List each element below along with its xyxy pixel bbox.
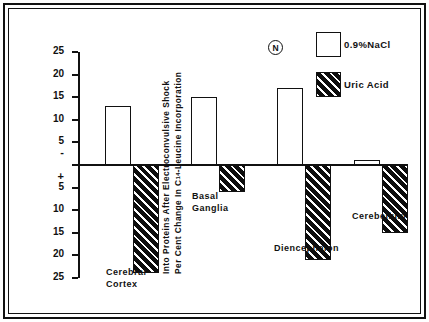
bar-nacl-cerebellum xyxy=(354,160,380,165)
y-axis-tick-label: 10 xyxy=(53,204,64,214)
category-label-line: Cerebellum xyxy=(352,210,406,222)
legend-swatch-open-square-icon xyxy=(316,32,341,57)
figure-root: Per Cent Change In C14-Leucine Incorpora… xyxy=(0,0,429,322)
category-label-diencephalon: Diencephalon xyxy=(274,242,339,254)
y-axis-tick: 15 xyxy=(72,96,78,98)
y-axis-tick-label: 20 xyxy=(53,249,64,259)
y-axis-sign-label: - xyxy=(60,147,64,158)
y-axis-tick: 25 xyxy=(72,277,78,279)
bar-nacl-basal-ganglia xyxy=(191,97,217,165)
y-axis-sign-sign_positive: + xyxy=(72,176,78,178)
y-axis-tick xyxy=(72,164,78,166)
y-axis-tick-label: 20 xyxy=(53,69,64,79)
bar-uric-acid-cerebellum xyxy=(382,165,408,233)
y-axis-tick: 10 xyxy=(72,209,78,211)
legend-label-uric-acid: Uric Acid xyxy=(344,79,389,90)
n-marker-icon: N xyxy=(268,40,283,55)
y-axis-tick-label: 25 xyxy=(53,272,64,282)
legend-item-nacl: 0.9%NaCl xyxy=(316,32,391,57)
y-axis-tick-label: 25 xyxy=(53,46,64,56)
y-axis-tick: 20 xyxy=(72,254,78,256)
bar-nacl-cerebral-cortex xyxy=(105,106,131,165)
category-label-line: Diencephalon xyxy=(274,242,339,254)
category-label-line: Basal xyxy=(192,190,229,202)
category-label-basal-ganglia: BasalGanglia xyxy=(192,190,229,214)
y-axis-tick: 20 xyxy=(72,74,78,76)
category-label-line: Cerebral xyxy=(106,266,147,278)
y-axis-title: Per Cent Change In C14-Leucine Incorpora… xyxy=(19,18,55,290)
y-axis-tick: 10 xyxy=(72,119,78,121)
y-axis-tick-label: 15 xyxy=(53,91,64,101)
y-axis-sign-sign_negative: - xyxy=(72,152,78,154)
y-axis-tick: 5 xyxy=(72,141,78,143)
y-axis-tick: 15 xyxy=(72,232,78,234)
y-axis-tick: 25 xyxy=(72,51,78,53)
bar-uric-acid-basal-ganglia xyxy=(219,165,245,192)
category-label-line: Cortex xyxy=(106,278,147,290)
legend-item-uric-acid: Uric Acid xyxy=(316,72,389,97)
y-axis-tick-label: 10 xyxy=(53,114,64,124)
y-axis-tick-label: 5 xyxy=(58,182,64,192)
legend-swatch-hatched-square-icon xyxy=(316,72,341,97)
bar-uric-acid-cerebral-cortex xyxy=(133,165,159,273)
y-axis-sign-label: + xyxy=(58,170,64,181)
category-label-cerebral-cortex: CerebralCortex xyxy=(106,266,147,290)
category-label-line: Ganglia xyxy=(192,202,229,214)
y-axis-tick: 5 xyxy=(72,187,78,189)
y-axis-tick-label: 15 xyxy=(53,227,64,237)
legend: N 0.9%NaCl Uric Acid xyxy=(268,32,418,110)
category-label-cerebellum: Cerebellum xyxy=(352,210,406,222)
legend-label-nacl: 0.9%NaCl xyxy=(344,39,391,50)
